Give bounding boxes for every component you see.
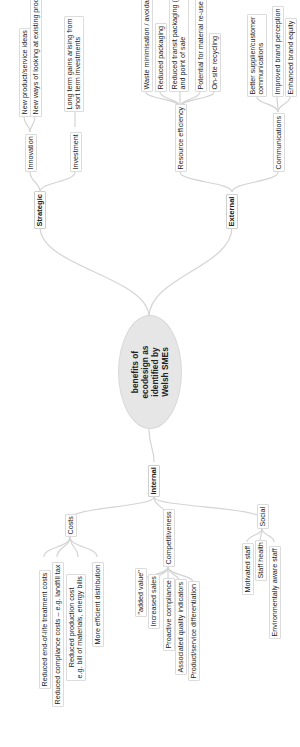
item-better-supplier-comms: Better supplier/customer communications	[247, 14, 267, 97]
item-quality-indicators: Associated quality indicators	[175, 579, 187, 675]
node-social: Social	[257, 504, 269, 529]
item-product-differentiation: Product/service differentiation	[188, 581, 200, 681]
item-reduced-transit-packaging: Reduced transit packaging (in/out) and p…	[169, 0, 189, 92]
item-reduced-transit-line-2: and point of sale	[178, 37, 187, 90]
node-communications: Communications	[273, 113, 285, 172]
item-long-term-gains-line-2: short term investments	[73, 37, 82, 110]
item-production-cost: Reduced production cost e.g. bill of mat…	[66, 574, 86, 681]
branch-external: External	[226, 194, 238, 229]
item-brand-perception: Improved brand perception	[272, 6, 284, 97]
item-end-of-life-costs: Reduced end-of-life treatment costs	[39, 570, 51, 689]
item-motivated-staff: Motivated staff	[242, 543, 254, 595]
root-line-1: benefits of	[130, 345, 140, 398]
item-onsite-recycling: On-site recycling	[209, 33, 221, 92]
item-efficient-distribution: More efficient distribution	[92, 562, 104, 647]
item-new-ways-looking: New ways of looking at existing products…	[30, 0, 42, 117]
item-material-reuse: Potential for material re-use	[195, 0, 207, 92]
item-waste-minimisation: Waste minimisation / avoidance	[141, 0, 153, 92]
root-line-4: Welsh SMEs	[160, 345, 170, 398]
item-brand-equity: Enhanced brand equity	[285, 18, 297, 97]
mind-map-canvas: benefits of ecodesign as identified by W…	[0, 0, 300, 747]
item-increased-sales: Increased sales	[148, 574, 160, 629]
item-added-value: "added value"	[135, 568, 147, 617]
node-investment: Investment	[70, 132, 82, 172]
node-innovation: Innovation	[25, 134, 37, 172]
item-compliance-costs: Reduced compliance costs – e.g. landfill…	[52, 562, 64, 707]
item-better-supplier-line-2: communications	[256, 43, 265, 95]
item-long-term-gains: Long term gains arising from short term …	[64, 16, 84, 112]
item-reduced-packaging: Reduced packaging	[155, 23, 167, 92]
item-production-cost-line-2: e.g. bill of materials, energy bills	[75, 576, 84, 678]
root-line-3: identified by	[150, 345, 160, 398]
branch-strategic: Strategic	[34, 192, 46, 230]
item-environmentally-aware-staff: Environmentally aware staff	[269, 546, 281, 639]
branch-internal: Internal	[148, 465, 160, 497]
node-resource-efficiency: Resource efficiency	[175, 104, 187, 172]
node-costs: Costs	[65, 514, 77, 537]
root-line-2: ecodesign as	[140, 345, 150, 398]
item-new-product-ideas: New product/service ideas	[19, 28, 31, 117]
node-competitiveness: Competitiveness	[163, 509, 175, 567]
root-node: benefits of ecodesign as identified by W…	[118, 315, 182, 429]
item-proactive-compliance: Proactive compliance	[163, 578, 175, 651]
item-staff-health: Staff health	[255, 540, 267, 581]
